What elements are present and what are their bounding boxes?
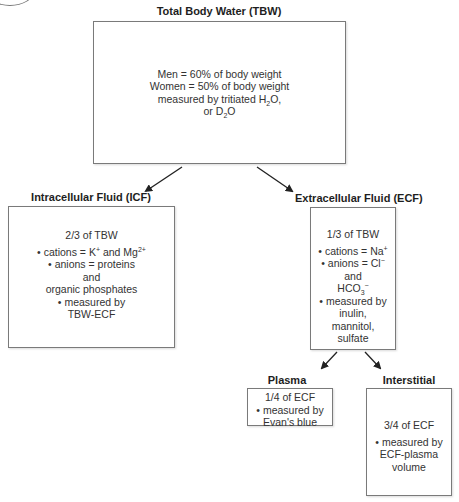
interstitial-title: Interstitial xyxy=(366,374,452,386)
ecf-box: 1/3 of TBW • cations = Na+ • anions = Cl… xyxy=(310,207,396,350)
tbw-d2o-line: or D2O xyxy=(204,105,236,118)
icf-anions: • anions = proteins xyxy=(48,258,135,271)
icf-box: 2/3 of TBW • cations = K+ and Mg2+ • ani… xyxy=(8,206,175,348)
tbw-title: Total Body Water (TBW) xyxy=(93,5,345,17)
ecf-fraction: 1/3 of TBW xyxy=(327,228,379,241)
plasma-box: 1/4 of ECF • measured by Evan's blue xyxy=(247,388,333,426)
arrow-ecf-to-plasma xyxy=(322,352,337,368)
plasma-method: Evan's blue xyxy=(263,416,317,429)
tbw-measured-line: measured by tritiated H2O, xyxy=(158,93,282,106)
tbw-men-line: Men = 60% of body weight xyxy=(157,68,281,81)
ecf-method-sulfate: sulfate xyxy=(338,332,369,345)
icf-cations: • cations = K+ and Mg2+ xyxy=(37,246,146,259)
plasma-fraction: 1/4 of ECF xyxy=(265,391,315,404)
interstitial-box: 3/4 of ECF • measured by ECF-plasma volu… xyxy=(366,388,452,496)
tbw-women-line: Women = 50% of body weight xyxy=(150,80,290,93)
ecf-hco3: HCO3− xyxy=(337,282,368,295)
ecf-cations: • cations = Na+ xyxy=(318,245,387,258)
plasma-title: Plasma xyxy=(262,374,312,386)
ecf-measured: • measured by xyxy=(319,295,386,308)
tbw-box: Men = 60% of body weight Women = 50% of … xyxy=(93,21,346,164)
icf-fraction: 2/3 of TBW xyxy=(65,229,117,242)
arrow-ecf-to-interstitial xyxy=(365,352,380,368)
interstitial-method-1: ECF-plasma xyxy=(380,448,438,461)
ecf-anions: • anions = Cl− xyxy=(321,257,385,270)
plasma-measured: • measured by xyxy=(256,404,323,417)
interstitial-method-2: volume xyxy=(392,461,426,474)
interstitial-measured: • measured by xyxy=(375,436,442,449)
arrow-tbw-to-icf xyxy=(146,167,182,191)
icf-and: and xyxy=(83,271,101,284)
icf-organic: organic phosphates xyxy=(46,283,138,296)
icf-method: TBW-ECF xyxy=(68,308,116,321)
ecf-method-mannitol: mannitol, xyxy=(332,320,375,333)
icf-title: Intracellular Fluid (ICF) xyxy=(8,191,174,203)
icf-measured: • measured by xyxy=(58,296,125,309)
arrow-tbw-to-ecf xyxy=(257,167,292,191)
ecf-method-inulin: inulin, xyxy=(339,307,366,320)
ecf-title: Extracellular Fluid (ECF) xyxy=(295,192,415,204)
ecf-and: and xyxy=(344,270,362,283)
corner-ellipse-mark xyxy=(0,0,34,6)
interstitial-fraction: 3/4 of ECF xyxy=(384,419,434,432)
